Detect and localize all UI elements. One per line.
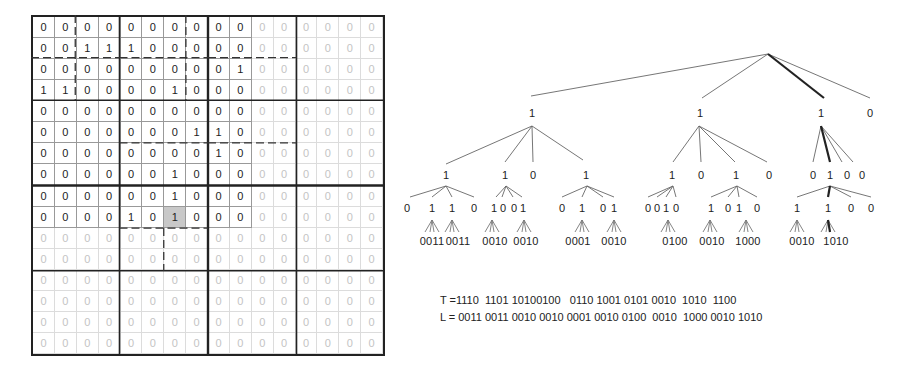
tree-node: 0 bbox=[754, 202, 760, 214]
tree-node: 0 bbox=[859, 169, 865, 181]
tree-node: 1 bbox=[825, 202, 831, 214]
tree-node: 1 bbox=[491, 202, 497, 214]
tree-node: 1 bbox=[669, 169, 675, 181]
tree-leaf-code: 0100 bbox=[662, 235, 687, 247]
tree-node: 0 bbox=[559, 202, 565, 214]
tree-node: 0 bbox=[867, 107, 873, 119]
tree-node: 1 bbox=[520, 202, 526, 214]
tree-leaf-code: 0001 bbox=[565, 235, 590, 247]
tree-leaf-code: 0010 bbox=[601, 235, 626, 247]
tree-leaf-code: 0010 bbox=[482, 235, 507, 247]
tree-node: 1 bbox=[818, 107, 824, 119]
tree-node: 0 bbox=[654, 202, 660, 214]
tree-node: 1 bbox=[443, 169, 449, 181]
tree-node: 0 bbox=[471, 202, 477, 214]
tree-leaf-code: 0010 bbox=[513, 235, 538, 247]
tree-leaf-code: 1010 bbox=[823, 235, 848, 247]
tree-node: 1 bbox=[697, 107, 703, 119]
tree-node: 0 bbox=[404, 202, 410, 214]
tree-node: 0 bbox=[766, 169, 772, 181]
tree-leaf-code: 0010 bbox=[789, 235, 814, 247]
tree-node: 1 bbox=[827, 169, 833, 181]
tree-node: 1 bbox=[663, 202, 669, 214]
encoding-output: T =1110 1101 10100100 0110 1001 0101 001… bbox=[440, 292, 762, 326]
tree-leaf-code: 0010 bbox=[699, 235, 724, 247]
tree-node: 0 bbox=[725, 202, 731, 214]
tree-code-T: T =1110 1101 10100100 0110 1001 0101 001… bbox=[440, 292, 762, 309]
tree-node: 0 bbox=[673, 202, 679, 214]
tree-node: 0 bbox=[645, 202, 651, 214]
tree-node: 1 bbox=[708, 202, 714, 214]
tree-node: 0 bbox=[844, 169, 850, 181]
tree-node: 0 bbox=[698, 169, 704, 181]
tree-node: 0 bbox=[511, 202, 517, 214]
tree-node: 0 bbox=[868, 202, 874, 214]
tree-node: 1 bbox=[579, 202, 585, 214]
tree-node: 1 bbox=[583, 169, 589, 181]
tree-node: 1 bbox=[733, 169, 739, 181]
tree-node: 1 bbox=[736, 202, 742, 214]
tree-node: 1 bbox=[429, 202, 435, 214]
quadtree-diagram: 1110110110100100011010010101001010101100… bbox=[395, 40, 900, 270]
tree-node: 1 bbox=[794, 202, 800, 214]
tree-leaf-code: 0011 bbox=[446, 235, 470, 247]
tree-node: 0 bbox=[600, 202, 606, 214]
tree-leaf-code: 0011 bbox=[420, 235, 444, 247]
tree-node: 0 bbox=[500, 202, 506, 214]
tree-node: 1 bbox=[529, 107, 535, 119]
tree-node: 1 bbox=[611, 202, 617, 214]
leaf-code-L: L = 0011 0011 0010 0010 0001 0010 0100 0… bbox=[440, 309, 762, 326]
tree-node: 1 bbox=[449, 202, 455, 214]
tree-leaf-code: 1000 bbox=[735, 235, 760, 247]
tree-node: 0 bbox=[848, 202, 854, 214]
tree-node: 0 bbox=[810, 169, 816, 181]
tree-node: 0 bbox=[530, 169, 536, 181]
tree-node: 1 bbox=[502, 169, 508, 181]
